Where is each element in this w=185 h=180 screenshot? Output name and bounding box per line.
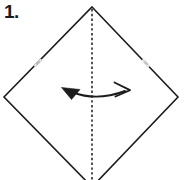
origami-step-figure: 1.: [0, 0, 185, 180]
origami-diagram: [0, 0, 185, 180]
paper-outline-diamond: [4, 7, 178, 180]
